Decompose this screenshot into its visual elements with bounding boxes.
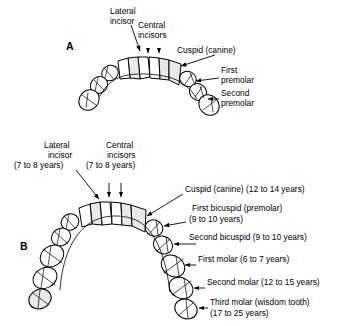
leader-first-premolar-a <box>196 78 219 81</box>
dental-diagram-canvas: A <box>0 0 338 326</box>
label-central-incisors-a-line1: Central <box>138 20 165 30</box>
label-first-bicuspid-b-line2: (9 to 10 years) <box>189 214 243 224</box>
label-lateral-incisor-b-line2: incisor <box>48 150 72 160</box>
leader-cuspid-a <box>181 55 215 66</box>
label-central-incisors-b-line2: incisors <box>107 150 135 160</box>
label-third-molar-b-line2: (17 to 25 years) <box>210 308 269 318</box>
tooth-b-central-incisor-left <box>111 202 122 225</box>
label-cuspid-a: Cuspid (canine) <box>177 45 236 55</box>
label-first-premolar-a-line1: First <box>221 65 238 75</box>
dental-figure: A <box>0 0 338 326</box>
label-second-premolar-a-line1: Second <box>221 88 250 98</box>
panel-a-arch <box>75 57 224 120</box>
panel-b: B <box>14 140 320 322</box>
label-second-bicuspid-b: Second bicuspid (9 to 10 years) <box>189 232 307 242</box>
label-third-molar-b-line1: Third molar (wisdom tooth) <box>210 297 310 307</box>
panel-b-arch <box>26 202 201 322</box>
leader-first-bicuspid-b <box>164 222 186 226</box>
label-lateral-incisor-b-line1: Lateral <box>44 140 70 150</box>
panel-a-letter: A <box>66 40 74 52</box>
panel-b-letter: B <box>20 240 28 252</box>
panel-a-labels: Lateral incisor Central incisors Cuspid … <box>110 6 254 108</box>
label-lateral-incisor-a-line1: Lateral <box>110 6 136 16</box>
label-central-incisors-b-line1: Central <box>106 140 133 150</box>
label-first-premolar-a-line2: premolar <box>221 75 254 85</box>
label-central-incisors-b-line3: (7 to 8 years) <box>86 160 136 170</box>
label-cuspid-b: Cuspid (canine) (12 to 14 years) <box>185 184 305 194</box>
tooth-b-lateral-incisor-left <box>121 203 132 226</box>
tooth-b-cuspid-right <box>79 204 92 227</box>
label-first-bicuspid-b-line1: First bicuspid (premolar) <box>192 203 282 213</box>
tooth-central-incisor-left <box>149 57 160 79</box>
label-second-premolar-a-line2: premolar <box>221 98 254 108</box>
tooth-b-cuspid-left <box>131 205 146 232</box>
leader-lateral-incisor-b <box>76 170 99 199</box>
label-lateral-incisor-b-line3: (7 to 8 years) <box>14 160 64 170</box>
label-central-incisors-a-line2: incisors <box>138 30 166 40</box>
leader-cuspid-b <box>147 194 183 216</box>
label-lateral-incisor-a-line2: incisor <box>110 16 134 26</box>
label-second-molar-b: Second molar (12 to 15 years) <box>207 277 320 287</box>
panel-a: A <box>66 6 254 120</box>
label-first-molar-b: First molar (6 to 7 years) <box>198 254 289 264</box>
